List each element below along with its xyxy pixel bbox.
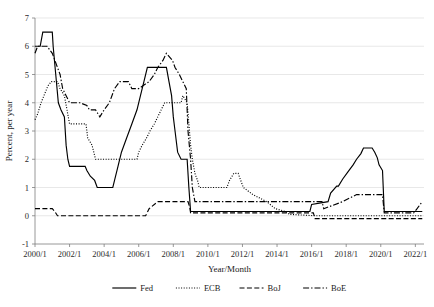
legend-item-fed[interactable]: Fed (112, 283, 154, 293)
series-line-ecb (35, 82, 422, 216)
plot-series (35, 32, 422, 218)
x-tick-label: 2020/1 (369, 249, 393, 259)
x-tick-label: 2016/1 (300, 249, 324, 259)
y-tick-label: 1 (25, 183, 29, 193)
legend-item-boj[interactable]: BoJ (240, 283, 282, 293)
x-axis: 2000/12002/12004/12006/12008/12010/12012… (23, 244, 427, 259)
x-axis-title: Year/Month (208, 264, 252, 274)
y-tick-label: 6 (25, 41, 29, 51)
y-tick-label: 3 (25, 126, 29, 136)
x-tick-label: 2022/1 (404, 249, 428, 259)
x-tick-label: 2012/1 (231, 249, 255, 259)
x-tick-label: 2010/1 (196, 249, 220, 259)
legend-item-boe[interactable]: BoE (303, 283, 346, 293)
x-tick-label: 2002/1 (58, 249, 82, 259)
legend-label-ecb: ECB (204, 283, 221, 293)
y-tick-label: 7 (25, 13, 29, 23)
gridlines (35, 18, 424, 216)
y-tick-label: 4 (25, 98, 30, 108)
y-axis-title: Percent, per year (4, 101, 14, 162)
x-tick-label: 2018/1 (334, 249, 358, 259)
x-tick-label: 2000/1 (23, 249, 47, 259)
y-tick-label: -1 (22, 239, 29, 249)
y-axis: -101234567 (22, 13, 35, 249)
legend-label-fed: Fed (140, 283, 154, 293)
y-tick-label: 2 (25, 154, 29, 164)
series-line-boe (35, 46, 422, 213)
x-tick-label: 2008/1 (161, 249, 185, 259)
legend-label-boj: BoJ (268, 283, 282, 293)
y-tick-label: 5 (25, 70, 29, 80)
legend-label-boe: BoE (331, 283, 346, 293)
x-tick-label: 2004/1 (92, 249, 116, 259)
series-line-fed (35, 32, 422, 211)
y-tick-label: 0 (25, 211, 29, 221)
line-chart: -101234567 2000/12002/12004/12006/12008/… (0, 0, 434, 307)
x-tick-label: 2006/1 (127, 249, 151, 259)
legend-item-ecb[interactable]: ECB (176, 283, 221, 293)
x-tick-label: 2014/1 (265, 249, 289, 259)
chart-container: -101234567 2000/12002/12004/12006/12008/… (0, 0, 434, 307)
chart-legend: FedECBBoJBoE (112, 283, 346, 293)
